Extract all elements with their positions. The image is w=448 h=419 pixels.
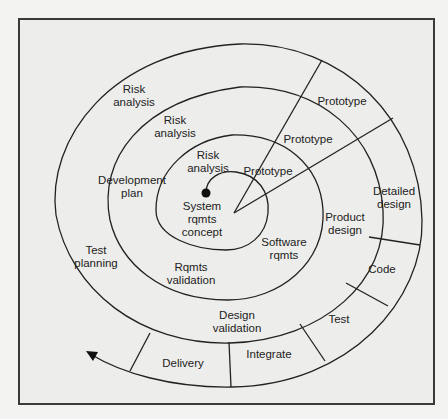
label-design-validation: Design validation	[213, 309, 262, 335]
label-software-rqmts: Software rqmts	[261, 236, 306, 262]
start-dot	[202, 189, 211, 198]
label-system-rqmts-concept: System rqmts concept	[182, 200, 222, 239]
label-test-planning: Test planning	[74, 244, 117, 270]
divider-integrate-delivery	[229, 342, 231, 387]
label-test: Test	[328, 313, 349, 326]
label-prototype-inner: Prototype	[243, 165, 292, 178]
label-delivery: Delivery	[162, 357, 204, 370]
label-product-design: Product design	[325, 211, 365, 237]
label-rqmts-validation: Rqmts validation	[167, 261, 216, 287]
label-integrate: Integrate	[246, 348, 291, 361]
divider-code-test	[346, 283, 388, 306]
label-prototype-middle: Prototype	[283, 133, 332, 146]
figure-canvas: Risk analysis Risk analysis Risk analysi…	[0, 0, 448, 419]
label-risk-analysis-inner: Risk analysis	[187, 149, 229, 175]
divider-test-integrate	[300, 324, 325, 361]
label-development-plan: Development plan	[98, 174, 166, 200]
divider-delivery-left	[130, 333, 150, 371]
label-risk-analysis-outer: Risk analysis	[113, 83, 155, 109]
label-risk-analysis-middle: Risk analysis	[154, 114, 196, 140]
label-code: Code	[368, 263, 396, 276]
divider-detailed-code	[369, 237, 420, 245]
label-prototype-outer: Prototype	[317, 95, 366, 108]
label-detailed-design: Detailed design	[373, 185, 415, 211]
arrowhead-icon	[86, 351, 98, 361]
